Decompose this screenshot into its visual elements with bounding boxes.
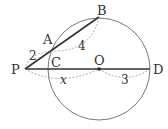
secant-diagram: P A B C O D 2 4 x 3 <box>0 0 168 129</box>
label-c: C <box>51 55 61 70</box>
measure-label-pa: 2 <box>29 49 37 63</box>
label-a: A <box>42 32 53 47</box>
measure-label-ab: 4 <box>78 39 86 53</box>
measure-label-po: x <box>60 73 67 87</box>
label-b: B <box>97 3 107 18</box>
measure-label-od: 3 <box>121 73 129 87</box>
label-o: O <box>94 53 105 68</box>
label-d: D <box>153 62 163 77</box>
label-p: P <box>11 62 20 77</box>
